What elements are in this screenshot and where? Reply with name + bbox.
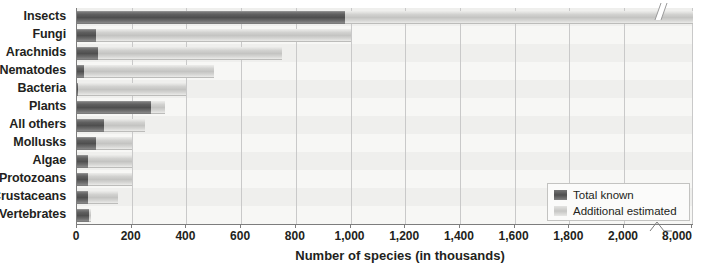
legend-item-total-known: Total known [554, 188, 683, 202]
x-tick-label-8000: 8,000 [662, 229, 692, 243]
x-tick-1200 [404, 224, 405, 228]
x-tick-1600 [514, 224, 515, 228]
category-label-mollusks: Mollusks [13, 134, 66, 151]
gridline-8000 [692, 8, 693, 224]
x-tick-0 [76, 224, 77, 228]
bar-segment-known [77, 209, 89, 222]
x-tick-800 [295, 224, 296, 228]
gridline-1400 [460, 8, 461, 224]
bar-segment-known [77, 83, 78, 96]
x-tick-1000 [350, 224, 351, 228]
bar-segment-known [77, 173, 88, 186]
category-axis-labels: Insects Fungi Arachnids Nematodes Bacter… [0, 8, 70, 224]
category-label-all-others: All others [9, 116, 66, 133]
bar-segment-known [77, 191, 88, 204]
x-tick-label-0: 0 [73, 229, 80, 243]
x-axis-title: Number of species (in thousands) [190, 248, 610, 263]
legend-item-additional-estimated: Additional estimated [554, 204, 683, 218]
x-tick-200 [131, 224, 132, 228]
x-tick-label-1000: 1,000 [334, 229, 364, 243]
bar-segment-known [77, 155, 88, 168]
x-tick-8000 [691, 224, 692, 228]
bar-segment-known [77, 47, 98, 60]
category-label-fungi: Fungi [32, 26, 66, 43]
bar-segment-known [77, 101, 151, 114]
x-tick-2000 [623, 224, 624, 228]
bar-segment-estimated [77, 83, 186, 96]
x-tick-400 [185, 224, 186, 228]
gridline-1200 [405, 8, 406, 224]
category-label-insects: Insects [24, 8, 66, 25]
category-label-nematodes: Nematodes [0, 62, 66, 79]
category-label-vertebrates: Vertebrates [0, 206, 66, 223]
bar-segment-estimated [77, 29, 351, 42]
x-tick-1800 [568, 224, 569, 228]
x-tick-label-1400: 1,400 [444, 229, 474, 243]
category-label-protozoans: Protozoans [0, 170, 66, 187]
x-tick-label-200: 200 [121, 229, 141, 243]
row-band [77, 152, 693, 170]
gridline-1000 [351, 8, 352, 224]
x-tick-600 [240, 224, 241, 228]
x-tick-1400 [459, 224, 460, 228]
gridline-1600 [515, 8, 516, 224]
category-label-crustaceans: Crustaceans [0, 188, 66, 205]
category-label-plants: Plants [29, 98, 66, 115]
legend-swatch-icon-known [554, 190, 567, 200]
legend-swatch-icon-estimated [554, 206, 567, 216]
x-tick-label-2000: 2,000 [608, 229, 638, 243]
bar-segment-known [77, 119, 104, 132]
x-tick-label-1800: 1,800 [553, 229, 583, 243]
x-axis-line [76, 224, 693, 225]
bar-segment-known [77, 11, 345, 24]
x-tick-label-600: 600 [230, 229, 250, 243]
x-tick-label-400: 400 [175, 229, 195, 243]
x-tick-label-1600: 1,600 [499, 229, 529, 243]
category-label-algae: Algae [32, 152, 66, 169]
bar-segment-known [77, 137, 96, 150]
bar-segment-known [77, 65, 84, 78]
chart-legend: Total known Additional estimated [547, 183, 690, 221]
species-bar-chart: Insects Fungi Arachnids Nematodes Bacter… [0, 0, 702, 271]
x-tick-label-800: 800 [285, 229, 305, 243]
row-band [77, 116, 693, 134]
legend-label-additional-estimated: Additional estimated [573, 205, 677, 217]
x-tick-label-1200: 1,200 [389, 229, 419, 243]
bar-segment-estimated [77, 47, 282, 60]
bar-segment-known [77, 29, 96, 42]
bar-segment-estimated [77, 65, 214, 78]
category-label-arachnids: Arachnids [6, 44, 66, 61]
legend-label-total-known: Total known [573, 189, 634, 201]
category-label-bacteria: Bacteria [17, 80, 66, 97]
